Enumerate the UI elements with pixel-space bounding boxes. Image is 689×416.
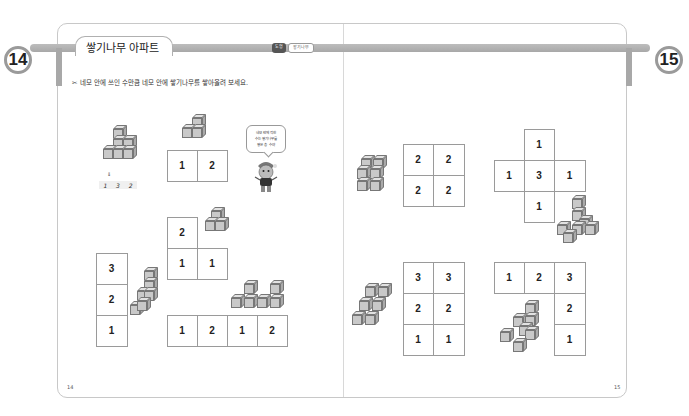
grid-cell[interactable]: 2 (433, 293, 465, 325)
speech-bubble: 네모 안에 적힌 수는 쌓기나무를 쌓은 층 수야 (246, 125, 286, 153)
grid-cell[interactable]: 2 (96, 284, 128, 316)
puzzle-8-cubes (500, 300, 548, 358)
grid-cell[interactable]: 2 (167, 217, 198, 249)
grid-cell[interactable]: 1 (524, 191, 555, 223)
puzzle-1-cubes (180, 114, 215, 144)
page-number-left: 14 (67, 384, 73, 390)
page-title: 쌓기나무 아파트 (75, 36, 173, 56)
grid-cell[interactable]: 2 (197, 315, 228, 347)
down-arrow-icon: ⇓ (107, 171, 111, 177)
grid-cell-empty (494, 191, 525, 223)
grid-cell[interactable]: 2 (403, 293, 434, 325)
puzzle-4-cubes (230, 278, 292, 313)
ribbon-stem-left (56, 48, 62, 86)
instruction-text: ✂ 네모 안에 쓰인 수만큼 네모 안에 쌓기나무를 쌓아올려 보세요. (72, 77, 248, 87)
example-answer: 1 3 2 (99, 181, 137, 189)
grid-cell[interactable]: 3 (524, 160, 555, 192)
grid-cell[interactable]: 1 (167, 248, 198, 280)
grid-cell[interactable]: 1 (197, 248, 228, 280)
grid-cell[interactable]: 1 (494, 262, 525, 294)
puzzle-5-cubes (357, 155, 392, 191)
grid-cell[interactable]: 1 (403, 324, 434, 356)
puzzle-4-grid: 1 2 1 2 (167, 315, 287, 346)
grid-cell[interactable]: 1 (494, 160, 525, 192)
grid-cell[interactable]: 1 (433, 324, 465, 356)
grid-cell[interactable]: 1 (554, 160, 586, 192)
page-fold (343, 24, 344, 397)
puzzle-3-grid: 3 2 1 (96, 253, 127, 346)
grid-cell-empty (494, 129, 525, 161)
grid-cell[interactable]: 3 (433, 262, 465, 294)
grid-cell[interactable]: 2 (257, 315, 288, 347)
example-answer-1: 1 (103, 182, 107, 189)
grid-cell[interactable]: 1 (227, 315, 258, 347)
example-answer-3: 2 (129, 182, 133, 189)
bubble-line-3: 쌓은 층 수야 (247, 142, 285, 148)
grid-cell[interactable]: 2 (403, 144, 434, 176)
puzzle-3-cubes (130, 265, 165, 325)
grid-cell[interactable]: 2 (554, 293, 586, 325)
puzzle-2-cubes (203, 205, 238, 245)
grid-cell[interactable]: 1 (524, 129, 555, 161)
grid-cell[interactable]: 3 (554, 262, 586, 294)
grid-cell[interactable]: 2 (433, 175, 465, 207)
category-tags: 도형 쌓기나무 (272, 43, 314, 53)
grid-cell[interactable]: 3 (96, 253, 128, 285)
grid-cell[interactable]: 1 (96, 315, 128, 347)
puzzle-6-cubes (557, 195, 605, 247)
page-badge-left: 14 (4, 46, 32, 74)
grid-cell[interactable]: 3 (403, 262, 434, 294)
tag-topic: 쌓기나무 (288, 43, 314, 53)
example-answer-2: 3 (116, 182, 120, 189)
page-number-right: 15 (614, 384, 620, 390)
grid-cell-empty (554, 129, 586, 161)
grid-cell[interactable]: 2 (433, 144, 465, 176)
grid-cell[interactable]: 2 (524, 262, 555, 294)
grid-cell[interactable]: 1 (167, 315, 198, 347)
puzzle-5-grid: 2 2 2 2 (403, 144, 464, 206)
grid-cell[interactable]: 2 (403, 175, 434, 207)
puzzle-7-grid: 3 3 2 2 1 1 (403, 262, 464, 355)
ribbon-stem-right (626, 48, 632, 86)
mascot-cat-icon (252, 158, 280, 194)
grid-cell[interactable]: 1 (554, 324, 586, 356)
grid-cell[interactable]: 1 (167, 150, 198, 182)
example-cube-stack (103, 125, 143, 170)
puzzle-1-grid: 1 2 (167, 150, 227, 181)
page-badge-right: 15 (655, 46, 683, 74)
puzzle-7-cubes (352, 283, 400, 338)
tag-category: 도형 (272, 43, 286, 53)
grid-cell[interactable]: 2 (197, 150, 228, 182)
